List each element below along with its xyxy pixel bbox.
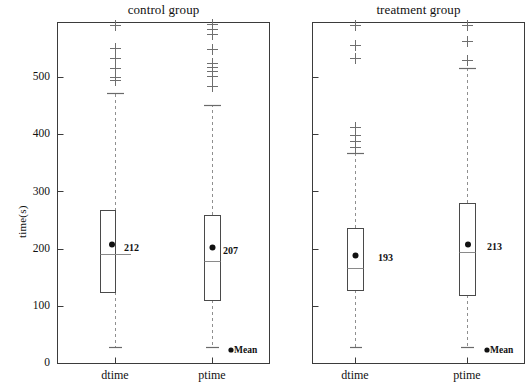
outlier-group-right-ptime <box>462 20 473 66</box>
boxplot-left-ptime <box>204 19 234 353</box>
mean-marker-left-dtime <box>109 242 115 248</box>
boxplot-figure: time(s) 500 400 300 200 100 0 control gr… <box>0 0 527 387</box>
boxplot-right-dtime <box>347 20 364 348</box>
mean-marker-left-ptime <box>210 245 216 251</box>
outlier-group-left-ptime <box>207 19 218 92</box>
legend-marker-left <box>228 347 233 352</box>
boxplot-right-ptime <box>459 20 490 353</box>
panel-frame-control <box>58 23 270 364</box>
mean-marker-right-dtime <box>353 253 359 259</box>
mean-marker-right-ptime <box>465 242 471 248</box>
boxplot-left-dtime <box>101 20 132 348</box>
legend-marker-right <box>484 347 489 352</box>
outlier-group-left-dtime <box>110 20 121 86</box>
outlier-group-right-dtime <box>350 20 361 153</box>
panel-frame-treatment <box>313 23 525 364</box>
plot-graphics <box>0 0 527 387</box>
